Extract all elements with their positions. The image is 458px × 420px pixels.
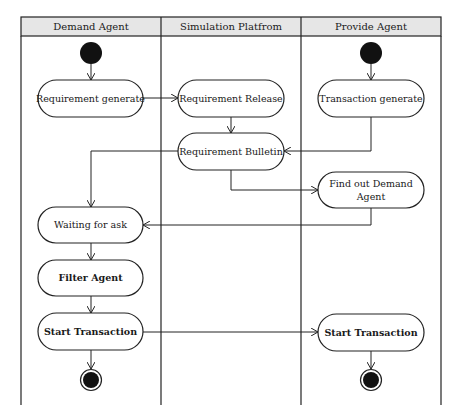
svg-text:Start Transaction: Start Transaction — [324, 327, 417, 338]
start-node-provide — [360, 42, 382, 64]
node-waiting-for-ask: Waiting for ask — [38, 207, 143, 243]
svg-text:Waiting for ask: Waiting for ask — [54, 219, 127, 230]
node-start-transaction-demand: Start Transaction — [38, 313, 143, 350]
svg-text:Filter Agent: Filter Agent — [58, 272, 123, 283]
lane-title-platform: Simulation Platfrom — [180, 21, 282, 32]
svg-text:Agent: Agent — [356, 191, 386, 202]
activity-diagram: Demand Agent Simulation Platfrom Provide… — [0, 0, 458, 420]
edge-find-to-waiting — [143, 208, 371, 225]
node-requirement-bulletin: Requirement Bulletin — [178, 133, 284, 170]
node-start-transaction-provide: Start Transaction — [318, 314, 424, 351]
svg-text:Transaction generate: Transaction generate — [319, 93, 423, 104]
svg-text:Requirement Bulletin: Requirement Bulletin — [179, 146, 283, 157]
lane-title-demand: Demand Agent — [53, 21, 128, 32]
node-filter-agent: Filter Agent — [38, 260, 143, 296]
start-node-demand — [80, 42, 102, 64]
node-transaction-generate: Transaction generate — [318, 80, 424, 117]
node-find-out-demand-agent: Find out Demand Agent — [318, 172, 424, 208]
svg-text:Requirement Release: Requirement Release — [179, 93, 283, 104]
svg-text:Find out Demand: Find out Demand — [329, 178, 413, 189]
edge-trans-to-bulletin — [284, 117, 371, 151]
lane-title-provide: Provide Agent — [335, 21, 407, 32]
edge-bulletin-to-find — [231, 170, 318, 190]
end-node-demand — [81, 370, 102, 391]
activity-nodes: Requirement generate Requirement Release… — [36, 80, 424, 351]
edge-bulletin-to-waiting — [91, 151, 178, 207]
end-node-provide — [361, 370, 382, 391]
svg-text:Requirement generate: Requirement generate — [36, 93, 145, 104]
node-requirement-generate: Requirement generate — [36, 80, 145, 117]
swimlane-headers: Demand Agent Simulation Platfrom Provide… — [21, 17, 441, 36]
node-requirement-release: Requirement Release — [178, 80, 284, 117]
svg-text:Start Transaction: Start Transaction — [44, 326, 137, 337]
